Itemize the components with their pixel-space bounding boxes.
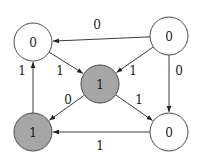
node-center: 1 [81,65,119,103]
edge-label: 0 [93,18,101,32]
edge-label: 1 [56,64,64,78]
nodes-layer: 00110 [14,17,188,151]
edge-label: 0 [175,64,183,78]
node-label: 0 [29,36,37,50]
directed-graph: 00110 01101011 [0,0,200,163]
node-top-left: 0 [14,23,52,61]
node-bottom-left: 1 [14,113,52,151]
edge-top-right-to-top-left [53,37,150,41]
edge-center-to-bottom-right [116,95,153,121]
edge-label: 1 [135,93,143,107]
edge-label: 1 [129,64,137,78]
edge-label: 0 [64,93,72,107]
node-top-right: 0 [150,17,188,55]
node-label: 1 [96,78,104,92]
node-bottom-right: 0 [150,113,188,151]
edge-top-left-to-center [49,52,83,73]
node-label: 1 [29,126,37,140]
edge-label: 1 [18,64,26,78]
node-label: 0 [165,126,173,140]
node-label: 0 [165,30,173,44]
edge-label: 1 [96,139,104,153]
